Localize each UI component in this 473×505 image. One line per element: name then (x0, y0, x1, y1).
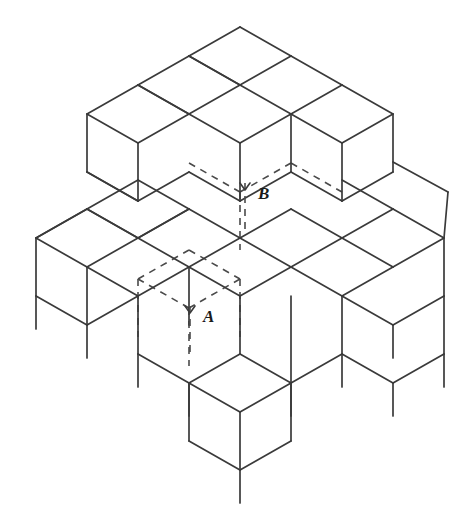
callout-b-label: B (257, 184, 269, 203)
callout-a: A (185, 306, 214, 352)
middle-tier-top-faces (36, 162, 448, 267)
top-tier-cube (189, 27, 291, 85)
isometric-figure: A B (0, 0, 473, 505)
visible-cube-edges (36, 27, 448, 503)
hidden-cube-b (189, 163, 342, 250)
callout-b: B (240, 183, 269, 229)
lower-tier-wireframe (36, 238, 444, 503)
upper-tier-vertical-edges (87, 114, 393, 201)
isometric-cube-diagram: A B (0, 0, 473, 505)
callout-a-label: A (202, 307, 214, 326)
upper-tier-top-faces (87, 56, 393, 143)
